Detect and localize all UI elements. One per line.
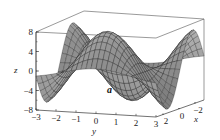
y-tick-label: 0 [94,116,99,126]
z-axis-label: z [13,65,18,75]
y-tick-label: 1 [114,117,119,127]
y-tick-label: −2 [51,113,61,123]
y-tick-label: 2 [134,118,139,128]
surface-plot: 840−4−8 −3−2−10123 20−2 z y x a [0,0,220,140]
x-tick-label: 0 [180,111,185,121]
z-tick-label: 8 [29,27,34,37]
y-tick-label: −3 [31,112,41,122]
surface-mesh [36,23,204,109]
z-tick-label: 4 [29,47,34,57]
y-tick-label: −1 [71,114,81,124]
x-tick-label: 2 [164,116,169,126]
y-tick-label: 3 [154,119,159,129]
panel-label: a [107,84,112,95]
z-axis: 840−4−8 [23,27,39,115]
z-tick-label: 0 [29,66,34,76]
x-axis-label: x [193,114,198,124]
z-tick-label: −4 [23,86,33,96]
y-axis-label: y [91,126,96,136]
